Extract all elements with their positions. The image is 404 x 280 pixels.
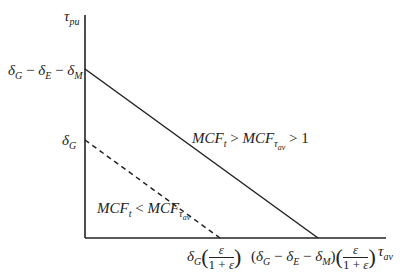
x-tick-right: (δG − δE − δM)(ε1 + ε) (251, 243, 376, 271)
fraction: ε1 + ε (343, 243, 368, 271)
y-axis-label: τpu (64, 9, 79, 27)
dashed-line-label: MCFt < MCFτav (97, 201, 190, 222)
x-tick-left: δG(ε1 + ε) (187, 243, 241, 271)
y-tick-lower: δG (62, 133, 76, 151)
y-tick-upper: δG − δE − δM (8, 63, 83, 81)
dashed-line (85, 140, 220, 238)
fraction: ε1 + ε (209, 243, 234, 271)
x-axis-label: τav (378, 244, 393, 262)
solid-line-label: MCFt > MCFτav > 1 (192, 131, 309, 152)
